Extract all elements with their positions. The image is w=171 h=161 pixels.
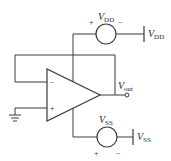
vdd-source-label: VDD — [98, 11, 114, 24]
vout-label: Vout — [118, 80, 133, 93]
ground-icon — [9, 115, 21, 121]
vss-source-label: VSS — [99, 114, 113, 127]
vss-minus-sign: − — [116, 149, 121, 158]
vdd-plus-sign: + — [89, 18, 94, 27]
inverting-input-sign: − — [50, 78, 55, 87]
vdd-supply-wire — [73, 34, 96, 82]
feedback-wire — [15, 55, 115, 95]
vdd-terminal-label: VDD — [148, 28, 164, 41]
vss-terminal-label: VSS — [137, 131, 151, 144]
circuit-diagram: − + Vout + − VDD VDD + − VSS VSS — [0, 0, 171, 161]
vdd-source-icon — [96, 24, 116, 44]
vss-plus-sign: + — [94, 149, 99, 158]
vss-supply-wire — [73, 108, 97, 137]
vdd-minus-sign: − — [118, 18, 123, 27]
output-terminal-icon — [125, 93, 129, 97]
noninverting-input-sign: + — [50, 104, 55, 113]
vss-source-icon — [97, 127, 117, 147]
noninverting-input-wire — [15, 108, 47, 115]
